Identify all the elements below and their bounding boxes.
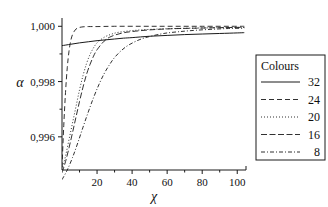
legend-label-8: 8 [314,145,320,159]
legend-label-24: 24 [308,93,320,107]
x-axis-title: χ [149,189,158,204]
y-tick-label: 0,998 [30,76,55,88]
legend-title: Colours [261,59,299,73]
series-line-20 [62,27,244,170]
series-line-24 [62,26,244,167]
chart-figure: 0,9960,9981,00020406080100αχColours32242… [0,0,328,207]
legend-label-20: 20 [308,110,320,124]
y-tick-label: 0,996 [30,131,55,143]
x-tick-label: 100 [229,176,246,188]
series-line-16 [62,27,244,172]
legend-label-16: 16 [308,128,320,142]
x-tick-label: 80 [197,176,209,188]
series-line-8 [62,28,244,179]
legend-label-32: 32 [308,75,320,89]
series-group [62,26,244,179]
x-tick-label: 60 [162,176,174,188]
y-tick-label: 1,000 [30,20,55,32]
x-tick-label: 20 [92,176,104,188]
x-tick-label: 40 [127,176,139,188]
line-chart-canvas: 0,9960,9981,00020406080100αχColours32242… [0,0,328,207]
series-line-32 [62,33,244,46]
y-axis-title: α [16,75,24,90]
